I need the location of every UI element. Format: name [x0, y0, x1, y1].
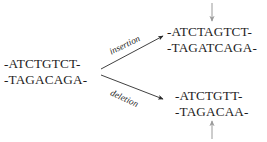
original-bottom-strand: -TAGACAGA- [4, 72, 87, 88]
deletion-result-sequence: -ATCTGTT- -TAGACAA- [175, 88, 249, 119]
deletion-top-strand: -ATCTGTT- [175, 88, 249, 104]
insertion-bottom-strand: -TAGATCAGA- [167, 40, 257, 56]
original-top-strand: -ATCTGTCT- [4, 56, 87, 72]
insertion-result-sequence: -ATCTAGTCT- -TAGATCAGA- [167, 24, 257, 55]
deletion-bottom-strand: -TAGACAA- [175, 104, 249, 120]
insertion-top-strand: -ATCTAGTCT- [167, 24, 257, 40]
mutation-diagram: -ATCTGTCT- -TAGACAGA- -ATCTAGTCT- -TAGAT… [0, 0, 267, 142]
original-sequence: -ATCTGTCT- -TAGACAGA- [4, 56, 87, 87]
